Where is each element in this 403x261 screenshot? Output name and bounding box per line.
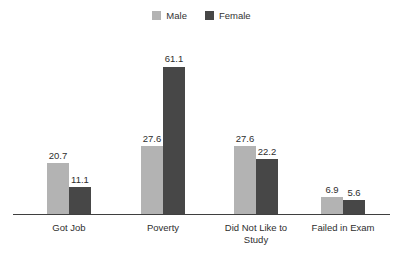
bar-female — [69, 187, 91, 214]
bar-female — [343, 200, 365, 214]
bar-wrap-female: 61.1 — [163, 54, 185, 214]
bar-wrap-male: 27.6 — [234, 54, 256, 214]
bar-wrap-male: 20.7 — [47, 54, 69, 214]
category-label-did-not-like-to-study: Did Not Like to Study — [216, 222, 296, 246]
bar-male — [321, 197, 343, 214]
bar-wrap-female: 22.2 — [256, 54, 278, 214]
bar-wrap-male: 27.6 — [141, 54, 163, 214]
category-label-failed-in-exam: Failed in Exam — [303, 222, 383, 234]
bar-value-male: 27.6 — [236, 134, 255, 144]
bar-wrap-male: 6.9 — [321, 54, 343, 214]
bar-value-female: 11.1 — [71, 175, 89, 185]
bar-female — [256, 159, 278, 214]
category-label-poverty: Poverty — [123, 222, 203, 234]
bar-value-male: 27.6 — [143, 134, 162, 144]
bar-value-female: 61.1 — [165, 54, 184, 64]
bar-group-did-not-like-to-study: 27.6 22.2 — [233, 54, 279, 214]
bar-group-failed-in-exam: 6.9 5.6 — [320, 54, 366, 214]
category-label-got-job: Got Job — [29, 222, 109, 234]
bar-group-poverty: 27.6 61.1 — [140, 54, 186, 214]
bar-female — [163, 67, 185, 215]
bar-value-male: 20.7 — [49, 151, 68, 161]
x-axis-baseline — [13, 214, 390, 215]
bar-value-female: 5.6 — [347, 188, 360, 198]
plot-area: 20.7 11.1 Got Job 27.6 61.1 Poverty — [0, 0, 403, 261]
bar-male — [47, 163, 69, 214]
grouped-bar-chart: Male Female 20.7 11.1 Got Job 27.6 — [0, 0, 403, 261]
bar-group-got-job: 20.7 11.1 — [46, 54, 92, 214]
bar-wrap-female: 11.1 — [69, 54, 91, 214]
bar-wrap-female: 5.6 — [343, 54, 365, 214]
bar-value-female: 22.2 — [258, 147, 277, 157]
bar-male — [141, 146, 163, 214]
bar-value-male: 6.9 — [325, 185, 338, 195]
bar-male — [234, 146, 256, 214]
